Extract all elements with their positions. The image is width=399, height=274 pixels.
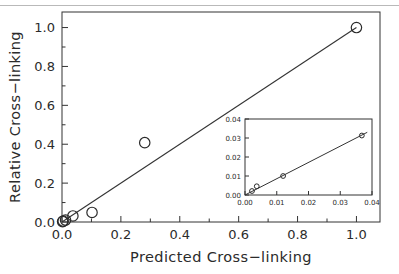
top-divider-rule [0,5,399,6]
y-axis-title: Relative Cross−linking [7,31,23,203]
x-tick-label-5: 1.0 [346,227,367,242]
y-tick-label-2: 0.4 [34,137,55,152]
scatter-plot-figure: 0.00.20.40.60.81.00.00.20.40.60.81.0 Pre… [0,0,399,274]
inset-y-tick-label-4: 0.04 [225,116,241,124]
inset-y-tick-label-3: 0.03 [225,135,241,143]
y-tick-label-5: 1.0 [34,20,55,35]
figure-container: 0.00.20.40.60.81.00.00.20.40.60.81.0 Pre… [0,0,399,274]
inset-y-tick-label-2: 0.02 [225,154,241,162]
y-tick-label-3: 0.6 [34,98,55,113]
main-point-5 [140,137,150,147]
inset-x-tick-label-0: 0.00 [237,199,253,207]
y-tick-label-1: 0.2 [34,176,55,191]
y-tick-label-0: 0.0 [34,215,55,230]
y-tick-label-4: 0.8 [34,59,55,74]
main-point-4 [87,207,97,217]
x-tick-label-1: 0.2 [111,227,132,242]
inset-x-tick-label-1: 0.01 [269,199,285,207]
x-axis-title: Predicted Cross−linking [130,249,312,265]
inset-axes [245,119,372,195]
inset-x-tick-label-3: 0.03 [332,199,348,207]
x-tick-label-3: 0.6 [228,227,249,242]
x-tick-label-4: 0.8 [287,227,308,242]
inset-y-tick-label-0: 0.00 [225,192,241,200]
inset-y-tick-label-1: 0.01 [225,173,241,181]
x-tick-label-2: 0.4 [169,227,190,242]
inset-x-tick-label-4: 0.04 [364,199,380,207]
inset-x-tick-label-2: 0.02 [301,199,317,207]
inset-plot-frame [245,119,372,195]
